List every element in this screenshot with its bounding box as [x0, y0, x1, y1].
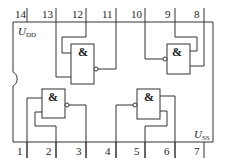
gate-symbol: &: [144, 90, 154, 104]
pin-label-6: 6: [164, 145, 170, 157]
pin-label-10: 10: [131, 8, 143, 20]
nand-gate-top-right: &: [145, 22, 204, 74]
pin-label-12: 12: [72, 8, 83, 20]
pin-label-7: 7: [194, 145, 200, 157]
gate-symbol: &: [172, 45, 182, 59]
pin-label-1: 1: [17, 145, 23, 157]
package-outline: [13, 22, 213, 142]
pin-label-2: 2: [46, 145, 52, 157]
pin-label-4: 4: [105, 145, 111, 157]
bottom-pin-row: 1 2 3 4 5 6 7: [17, 142, 204, 158]
supply-label-udd: UDD: [18, 25, 36, 39]
pin-label-11: 11: [102, 8, 113, 20]
gate-symbol: &: [48, 90, 58, 104]
supply-label-uss: USS: [194, 128, 210, 142]
top-pin-row: 14 13 12 11 10 9 8: [15, 8, 204, 22]
gate-symbol: &: [78, 45, 88, 59]
pin-label-13: 13: [42, 8, 54, 20]
pin-label-9: 9: [165, 8, 171, 20]
pin-label-14: 14: [15, 8, 27, 20]
pin-label-3: 3: [76, 145, 82, 157]
pin-label-8: 8: [194, 8, 200, 20]
nand-gate-top-left: &: [56, 22, 116, 84]
ic-pinout-diagram: 14 13 12 11 10 9 8 1 2 3 4 5 6 7 UDD USS: [0, 0, 225, 165]
pin-label-5: 5: [134, 145, 140, 157]
